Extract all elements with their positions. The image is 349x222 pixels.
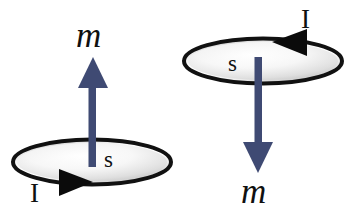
figure-canvas [0, 0, 349, 222]
right-diagram-group [184, 29, 342, 173]
moment-label-left: m [76, 18, 101, 53]
current-loop-right-sheen [188, 42, 338, 80]
current-label-left: I [30, 180, 39, 207]
current-label-right: I [301, 6, 310, 33]
left-diagram-group [13, 57, 171, 196]
spin-label-right: s [228, 52, 237, 75]
moment-label-right: m [241, 174, 266, 209]
physics-figure: m s I m s I [0, 0, 349, 222]
spin-label-left: s [104, 148, 113, 171]
